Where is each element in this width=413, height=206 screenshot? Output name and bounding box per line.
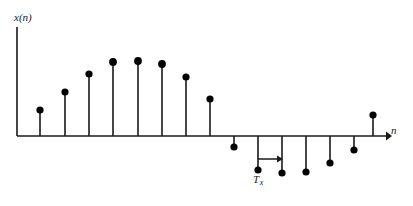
stem-plot-figure: x(n) n Tx <box>0 0 413 206</box>
stem-9 <box>230 136 237 151</box>
stem-marker <box>206 95 213 102</box>
stem-6 <box>158 60 166 136</box>
stem-11 <box>278 136 285 177</box>
stem-13 <box>326 136 333 167</box>
stem-marker <box>134 57 142 65</box>
sample-period-label-subscript: x <box>260 178 264 187</box>
stem-8 <box>206 95 213 136</box>
stem-group-negative <box>230 136 357 177</box>
stem-14 <box>350 136 357 154</box>
stem-marker <box>61 88 68 95</box>
stem-2 <box>61 88 68 136</box>
stem-marker <box>369 111 376 118</box>
stem-marker <box>302 168 309 175</box>
stem-5 <box>134 57 142 136</box>
stem-marker <box>158 60 166 68</box>
stem-group-positive <box>36 57 376 136</box>
y-axis-label: x(n) <box>14 12 32 23</box>
stem-marker <box>182 73 189 80</box>
stem-7 <box>182 73 189 136</box>
stem-marker <box>326 159 333 166</box>
stem-marker <box>350 146 357 153</box>
stem-12 <box>302 136 309 176</box>
stem-marker <box>85 70 92 77</box>
stem-1 <box>36 106 43 136</box>
stem-marker <box>36 106 43 113</box>
stem-plot-canvas <box>0 0 413 206</box>
stem-15 <box>369 111 376 136</box>
stem-marker <box>278 169 285 176</box>
stem-10 <box>254 136 261 174</box>
sample-period-label-base: T <box>253 173 259 185</box>
stem-4 <box>109 58 117 136</box>
sample-period-label: Tx <box>253 174 263 185</box>
sample-period-annotation-arrow <box>258 156 283 163</box>
stem-3 <box>85 70 92 136</box>
x-axis-label: n <box>391 125 397 136</box>
stem-marker <box>109 58 117 66</box>
stem-marker <box>230 143 237 150</box>
